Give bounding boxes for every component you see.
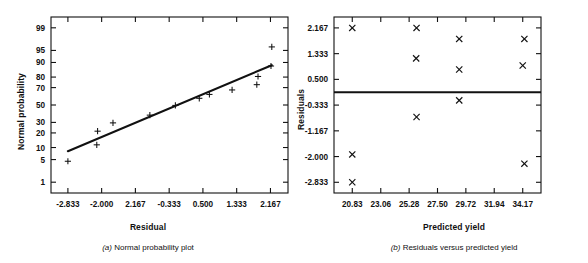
data-point-marker [456,36,462,42]
y-tick-label: 2.167 [308,24,329,33]
panel-a-caption: (a) Normal probability plot [102,243,194,252]
data-point-marker [413,55,419,61]
x-tick-label: 1.333 [226,200,247,209]
data-point-marker [456,66,462,72]
y-tick-label: 5 [40,156,45,165]
y-tick-label: 99 [36,24,46,33]
y-tick-label: 1 [40,178,45,187]
panel-a-caption-prefix: (a) [102,243,112,252]
x-axis-title-residual: Residual [130,222,166,232]
data-point-marker [65,158,71,164]
data-point-marker [110,120,116,126]
x-tick-label: 20.83 [342,200,363,209]
x-tick-label: 34.17 [512,200,533,209]
data-point-marker [413,114,419,120]
x-tick-label: 27.50 [427,200,448,209]
y-tick-label: 95 [36,46,46,55]
x-tick-label: -0.333 [158,200,182,209]
y-tick-label: 10 [36,144,46,153]
panel-b-caption: (b) Residuals versus predicted yield [391,243,518,252]
x-tick-label: 29.72 [456,200,477,209]
data-point-marker [269,44,275,50]
x-tick-label: 2.167 [125,200,146,209]
y-tick-label: 0.500 [308,75,329,84]
data-points [65,44,275,165]
panel-b-caption-text: Residuals versus predicted yield [403,243,518,252]
x-tick-label: -2.833 [56,200,80,209]
y-axis-title-normal-probability: Normal probability [16,73,26,150]
data-points [349,25,527,186]
y-axis-title-residuals: Residuals [296,89,306,130]
y-tick-label: -1.167 [305,127,329,136]
panel-a-caption-text: Normal probability plot [114,243,194,252]
data-point-marker [413,25,419,31]
data-point-marker [94,128,100,134]
y-tick-label: 1.333 [308,50,329,59]
fit-line [68,65,272,151]
y-tick-label: 80 [36,73,46,82]
y-tick-label: 30 [36,118,46,127]
y-tick-label: 50 [36,101,46,110]
data-point-marker [520,62,526,68]
y-tick-label: 20 [36,129,46,138]
data-point-marker [255,73,261,79]
figure-container: 15102030507080909599-2.833-2.0002.167-0.… [0,0,588,263]
data-point-marker [94,142,100,148]
data-point-marker [254,82,260,88]
data-point-marker [521,161,527,167]
data-point-marker [349,25,355,31]
panel-normal-probability-plot: 15102030507080909599-2.833-2.0002.167-0.… [0,0,294,263]
panel-b-caption-prefix: (b) [391,243,401,252]
data-point-marker [456,97,462,103]
y-tick-label: -0.333 [305,101,329,110]
x-tick-label: 2.167 [260,200,281,209]
panel-residuals-vs-predicted: 2.1671.3330.500-0.333-1.167-2.000-2.8332… [294,0,588,263]
data-point-marker [349,151,355,157]
y-tick-label: -2.000 [305,153,329,162]
y-tick-label: -2.833 [305,178,329,187]
data-point-marker [268,63,274,69]
y-tick-label: 70 [36,84,46,93]
x-axis-title-predicted-yield: Predicted yield [423,222,485,232]
x-tick-label: 23.06 [371,200,392,209]
data-point-marker [349,179,355,185]
y-tick-label: 90 [36,58,46,67]
data-point-marker [229,87,235,93]
x-tick-label: 25.28 [399,200,420,209]
x-tick-label: 31.94 [484,200,505,209]
x-tick-label: 0.500 [193,200,214,209]
data-point-marker [521,36,527,42]
x-tick-label: -2.000 [90,200,114,209]
